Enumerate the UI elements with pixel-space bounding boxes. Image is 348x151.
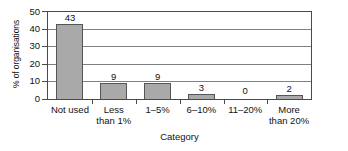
bar-group-more-than-20: 2 [267,12,311,99]
x-axis-tick-labels: Not used Less than 1% 1–5% 6–10% 11–20% … [48,104,311,126]
x-tick-label-line: 6–10% [179,104,223,115]
bar-rect [100,83,127,99]
bar-value-label: 0 [223,86,267,96]
x-tick-label-line: 1–5% [136,104,180,115]
x-tick-label-1-to-5: 1–5% [136,104,180,126]
bar-group-less-than-1: 9 [92,12,136,99]
y-tick-label-50: 50 [18,7,40,17]
bar-rect [188,94,215,99]
bar-series: 43 9 9 3 0 2 [48,12,311,99]
y-tick-label-40: 40 [18,24,40,34]
x-tick-label-line: More [267,104,311,115]
bar-group-not-used: 43 [48,12,92,99]
x-tick-label-11-to-20: 11–20% [223,104,267,126]
x-tick-label-line: Not used [48,104,92,115]
bar-rect [276,95,303,99]
bar-rect [144,83,171,99]
y-tick-label-30: 30 [18,41,40,51]
x-tick-label-line: 11–20% [223,104,267,115]
x-tick-label-line: Less [92,104,136,115]
bar-rect [56,24,83,99]
bar-group-11-to-20: 0 [223,12,267,99]
bar-value-label: 43 [48,13,92,23]
x-axis-title: Category [48,131,311,142]
bar-chart: % of organisations 50 40 30 20 10 0 43 9… [0,0,348,151]
bar-group-6-to-10: 3 [179,12,223,99]
bar-group-1-to-5: 9 [136,12,180,99]
y-axis-title: % of organisations [11,2,21,106]
y-tick-label-20: 20 [18,59,40,69]
bar-value-label: 9 [136,72,180,82]
y-tick-label-10: 10 [18,76,40,86]
bar-value-label: 3 [179,83,223,93]
bar-value-label: 9 [92,72,136,82]
x-tick-label-not-used: Not used [48,104,92,126]
x-tick-label-line: than 1% [92,115,136,126]
x-tick-label-more-than-20: More than 20% [267,104,311,126]
y-tick-label-0: 0 [18,94,40,104]
x-tick-label-line: than 20% [267,115,311,126]
x-tick-label-less-than-1: Less than 1% [92,104,136,126]
x-tick-label-6-to-10: 6–10% [179,104,223,126]
bar-value-label: 2 [267,84,311,94]
